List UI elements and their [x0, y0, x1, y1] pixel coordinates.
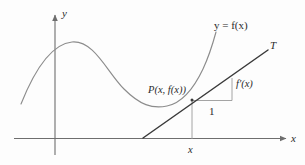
function-curve [21, 32, 216, 107]
tangent-label: T [270, 40, 276, 51]
x-tick-label: x [188, 145, 193, 156]
y-axis-label: y [62, 8, 67, 19]
derivative-tangent-figure: y x y = f(x) T P(x, f(x)) 1 f′(x) x [0, 0, 305, 165]
point-p-marker [191, 99, 194, 102]
rise-label: f′(x) [236, 79, 253, 90]
figure-canvas [0, 0, 305, 165]
point-p-label: P(x, f(x)) [148, 85, 186, 96]
run-label: 1 [209, 106, 215, 117]
x-axis-label: x [291, 133, 296, 144]
curve-label: y = f(x) [214, 20, 248, 31]
